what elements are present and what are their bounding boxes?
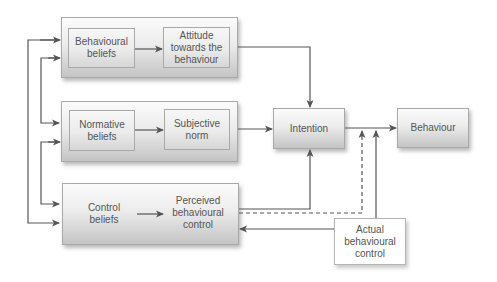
control-beliefs-node: Control beliefs bbox=[72, 196, 136, 232]
feedback-inner1-line bbox=[41, 58, 59, 123]
behavioural-beliefs-node: Behavioural beliefs bbox=[68, 28, 135, 68]
attitude-label: Attitude towards the behaviour bbox=[171, 30, 223, 66]
actual-control-node: Actual behavioural control bbox=[334, 218, 406, 265]
behavioural-beliefs-label: Behavioural beliefs bbox=[75, 36, 128, 60]
perceived-control-node: Perceived behavioural control bbox=[164, 192, 232, 234]
intention-node: Intention bbox=[273, 108, 345, 149]
subjective-norm-node: Subjective norm bbox=[164, 109, 230, 150]
actual-control-label: Actual behavioural control bbox=[344, 224, 396, 260]
normative-beliefs-node: Normative beliefs bbox=[69, 110, 135, 151]
feedback-outer-line bbox=[28, 40, 59, 223]
normative-beliefs-label: Normative beliefs bbox=[79, 119, 125, 143]
behaviour-label: Behaviour bbox=[410, 122, 455, 134]
arrow-attitude-to-intention bbox=[238, 47, 310, 107]
arrow-perceived-to-intention bbox=[239, 150, 310, 209]
subjective-norm-label: Subjective norm bbox=[174, 118, 220, 142]
perceived-control-label: Perceived behavioural control bbox=[172, 195, 224, 231]
intention-label: Intention bbox=[290, 123, 328, 135]
control-beliefs-label: Control beliefs bbox=[88, 202, 120, 226]
theory-of-planned-behaviour-diagram: Behavioural beliefs Attitude towards the… bbox=[0, 0, 497, 282]
attitude-node: Attitude towards the behaviour bbox=[163, 27, 230, 68]
feedback-inner2-line bbox=[41, 142, 59, 204]
behaviour-node: Behaviour bbox=[397, 108, 469, 148]
